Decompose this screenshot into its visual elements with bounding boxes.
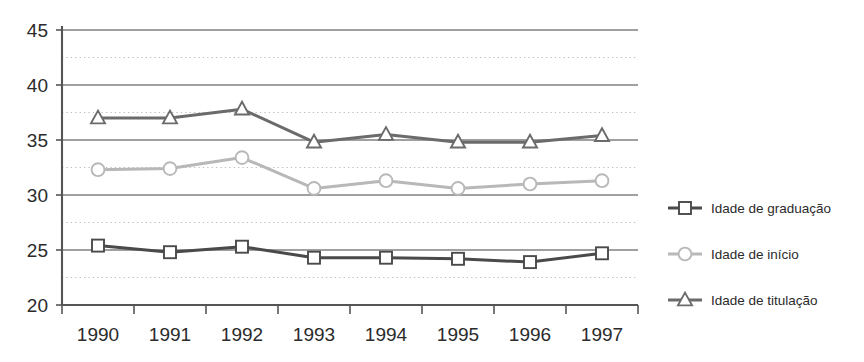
x-axis-tick-label: 1992 — [221, 324, 263, 345]
legend-item-idade-de-inicio[interactable]: Idade de início — [668, 247, 799, 262]
y-axis-tick-labels: 202530354045 — [27, 20, 48, 316]
y-axis-tick-label: 20 — [27, 295, 48, 316]
x-axis-tick-label: 1997 — [581, 324, 623, 345]
legend-item-idade-de-titulacao[interactable]: Idade de titulação — [668, 293, 818, 308]
x-axis-tick-labels: 19901991199219931994199519961997 — [77, 324, 623, 345]
data-point — [308, 182, 321, 195]
series-line — [98, 109, 602, 142]
x-axis-tick-label: 1991 — [149, 324, 191, 345]
data-point — [596, 174, 609, 187]
y-axis-tick-label: 25 — [27, 240, 48, 261]
data-point — [236, 151, 249, 164]
data-point — [236, 241, 248, 253]
y-axis-tick-label: 35 — [27, 130, 48, 151]
legend-item-idade-de-graduacao[interactable]: Idade de graduação — [668, 201, 831, 216]
data-point — [380, 174, 393, 187]
x-axis-tick-label: 1990 — [77, 324, 119, 345]
data-point — [92, 163, 105, 176]
data-point — [164, 246, 176, 258]
data-point — [452, 253, 464, 265]
data-point — [379, 127, 393, 140]
x-axis-tick-label: 1993 — [293, 324, 335, 345]
data-point — [452, 182, 465, 195]
data-point — [524, 256, 536, 268]
x-axis-tick-label: 1995 — [437, 324, 479, 345]
data-point — [524, 178, 537, 191]
y-axis-tick-label: 45 — [27, 20, 48, 41]
series-idade-de-graduacao — [92, 240, 608, 269]
y-axis-tick-label: 40 — [27, 75, 48, 96]
y-axis-tick-label: 30 — [27, 185, 48, 206]
data-point — [92, 240, 104, 252]
x-axis-tick-label: 1996 — [509, 324, 551, 345]
legend-label: Idade de titulação — [711, 293, 818, 308]
data-point — [235, 102, 249, 115]
legend-label: Idade de início — [711, 247, 799, 262]
data-point — [308, 252, 320, 264]
data-point — [596, 247, 608, 259]
data-point — [164, 162, 177, 175]
legend-marker-icon — [679, 248, 692, 261]
chart-legend: Idade de graduaçãoIdade de inícioIdade d… — [668, 201, 831, 308]
legend-label: Idade de graduação — [711, 201, 831, 216]
series-idade-de-inicio — [92, 151, 609, 195]
line-chart: 202530354045 199019911992199319941995199… — [0, 0, 864, 362]
chart-canvas: 202530354045 199019911992199319941995199… — [0, 0, 864, 362]
data-point — [380, 252, 392, 264]
data-series-layer — [91, 102, 609, 268]
series-idade-de-titulacao — [91, 102, 609, 148]
legend-marker-icon — [679, 202, 691, 214]
x-axis-tick-label: 1994 — [365, 324, 408, 345]
